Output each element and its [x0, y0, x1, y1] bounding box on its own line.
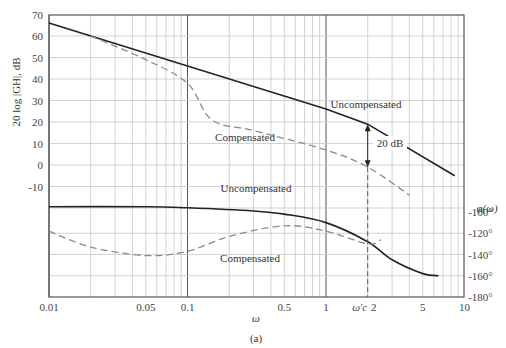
x-tick-label: 10	[459, 301, 471, 313]
x-tick-label: 0.05	[136, 301, 156, 313]
figure-caption: (a)	[250, 332, 263, 345]
y-tick-label: 0	[38, 159, 44, 171]
x-tick-label: 2	[371, 301, 377, 313]
label-uncompensated-magnitude: Uncompensated	[331, 98, 402, 110]
x-tick-label: 0.5	[277, 301, 291, 313]
y-tick-label: 40	[32, 73, 44, 85]
y-tick-label: 60	[32, 30, 44, 42]
x-tick-label: 0.01	[39, 301, 58, 313]
x-tick-label-crossover: ω′c	[352, 301, 367, 313]
y-axis-label: 20 log |GH|, dB	[10, 57, 22, 126]
compensated-phase-line	[49, 226, 381, 256]
y-tick-label: 20	[32, 116, 44, 128]
y-tick-label: 30	[32, 95, 44, 107]
x-tick-label: 5	[420, 301, 426, 313]
y-right-axis-label: φ(ω)	[476, 202, 498, 215]
y-tick-label: 50	[32, 52, 44, 64]
compensated-magnitude-line	[91, 36, 410, 195]
label-20db-gap: 20 dB	[377, 137, 404, 149]
y-right-tick-label: -160°	[468, 270, 493, 282]
y-tick-label: 70	[32, 9, 44, 21]
y-tick-label: 10	[32, 138, 44, 150]
x-tick-label: 0.1	[181, 301, 195, 313]
uncompensated-phase-line	[49, 207, 439, 276]
label-compensated-phase: Compensated	[220, 252, 280, 264]
y-right-tick-label: -120°	[468, 227, 493, 239]
label-compensated-magnitude: Compensated	[215, 131, 275, 143]
label-uncompensated-phase: Uncompensated	[221, 182, 292, 194]
bode-plot: 706050403020100-10-100°-120°-140°-160°-1…	[0, 0, 506, 348]
x-tick-label: 1	[323, 301, 329, 313]
x-axis-label: ω	[252, 312, 260, 324]
y-tick-label: -10	[28, 181, 43, 193]
y-right-tick-label: -180°	[468, 291, 493, 303]
y-right-tick-label: -140°	[468, 249, 493, 261]
